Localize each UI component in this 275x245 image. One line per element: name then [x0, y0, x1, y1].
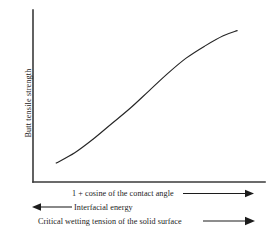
- annotation-arrow-contact-angle: [183, 190, 254, 197]
- annotation-label-critical-wetting-tension: Critical wetting tension of the solid su…: [38, 217, 182, 226]
- figure-container: Butt tensile strength 1 + cosine of the …: [0, 0, 275, 245]
- annotation-label-contact-angle: 1 + cosine of the contact angle: [72, 189, 174, 198]
- y-axis-label: Butt tensile strength: [24, 38, 33, 168]
- annotation-arrow-interfacial-energy: [32, 203, 72, 210]
- annotation-label-interfacial-energy: Interfacial energy: [74, 203, 133, 212]
- data-curve: [56, 31, 237, 163]
- annotation-arrow-critical-wetting-tension: [203, 217, 255, 225]
- plot-svg: [0, 0, 275, 245]
